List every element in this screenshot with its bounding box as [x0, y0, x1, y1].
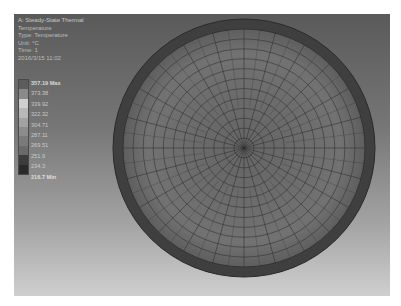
disc-mesh-model[interactable] — [14, 14, 390, 296]
graphics-viewport[interactable]: A: Steady-State Thermal Temperature Type… — [14, 14, 390, 296]
